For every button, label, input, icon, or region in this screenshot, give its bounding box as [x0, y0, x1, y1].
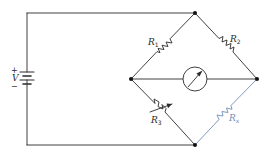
- resistor-r1-icon: [131, 13, 195, 79]
- resistor-r2-icon: [195, 13, 257, 79]
- node-left: [129, 77, 133, 81]
- rx-label: Rx: [228, 113, 240, 124]
- node-top: [193, 11, 197, 15]
- r2-label: R2: [229, 34, 241, 45]
- galvanometer-icon: [183, 67, 207, 91]
- resistor-r3-variable-icon: [131, 79, 195, 145]
- battery-minus-label: −: [11, 82, 18, 91]
- r1-label: R1: [147, 37, 159, 48]
- r3-label: R3: [150, 115, 162, 126]
- resistor-rx-icon: [195, 79, 257, 145]
- node-right: [255, 77, 259, 81]
- node-bottom: [193, 143, 197, 147]
- wheatstone-bridge-diagram: + V − R1 R2 R3 Rx: [0, 0, 272, 160]
